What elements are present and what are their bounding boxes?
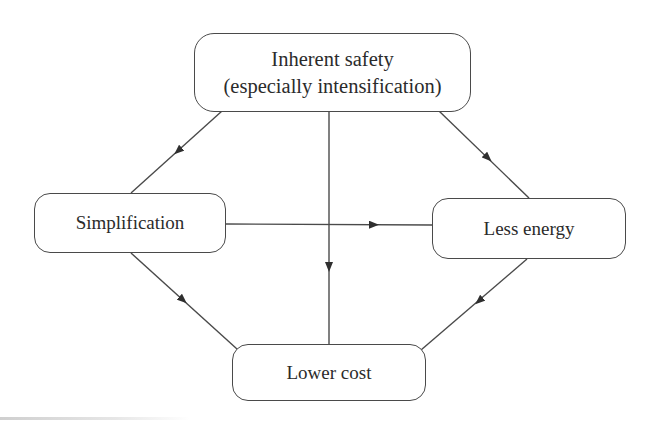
node-lower-cost-label: Lower cost [287, 361, 372, 385]
edge-safety-to-simplification [131, 111, 222, 193]
node-inherent-safety: Inherent safety (especially intensificat… [194, 33, 471, 112]
node-less-energy: Less energy [432, 198, 626, 259]
node-less-energy-label: Less energy [484, 217, 575, 241]
edge-simplification-to-less-energy [226, 224, 432, 225]
node-simplification-label: Simplification [76, 211, 185, 235]
edge-safety-to-less-energy [439, 111, 529, 198]
edge-simplification-to-lower-cost [131, 253, 237, 349]
node-inherent-safety-line-2: (especially intensification) [223, 73, 441, 100]
diagram-canvas: Inherent safety (especially intensificat… [0, 0, 657, 424]
node-inherent-safety-line-1: Inherent safety [271, 46, 393, 73]
node-simplification: Simplification [34, 193, 226, 253]
node-lower-cost: Lower cost [232, 344, 426, 401]
scan-artifact-line [0, 417, 190, 420]
edge-less-energy-to-lower-cost [421, 259, 527, 350]
